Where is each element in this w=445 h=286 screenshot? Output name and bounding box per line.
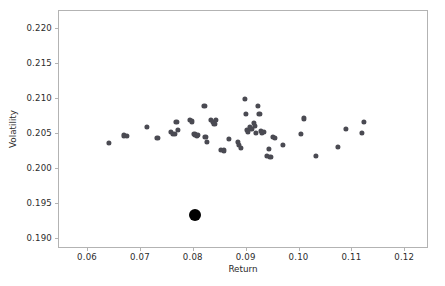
scatter-point <box>361 119 366 124</box>
scatter-point <box>190 119 195 124</box>
scatter-point <box>298 131 303 136</box>
scatter-point <box>243 112 248 117</box>
x-tick-label: 0.10 <box>289 252 309 262</box>
scatter-point <box>226 136 231 141</box>
y-tick-mark <box>55 168 58 169</box>
scatter-points-layer <box>59 11 427 247</box>
scatter-point <box>242 96 247 101</box>
x-tick-mark <box>140 248 141 251</box>
x-tick-mark <box>193 248 194 251</box>
y-tick-mark <box>55 98 58 99</box>
scatter-point <box>204 139 209 144</box>
scatter-point <box>301 116 306 121</box>
caption-strip <box>0 279 445 286</box>
scatter-point <box>257 111 262 116</box>
scatter-point <box>273 135 278 140</box>
scatter-point <box>266 146 271 151</box>
scatter-point <box>280 142 285 147</box>
scatter-point <box>238 145 243 150</box>
scatter-point <box>195 132 200 137</box>
x-tick-label: 0.06 <box>77 252 97 262</box>
scatter-point <box>268 155 273 160</box>
x-tick-mark <box>246 248 247 251</box>
x-axis-label: Return <box>228 264 257 274</box>
scatter-point <box>124 133 129 138</box>
y-tick-mark <box>55 63 58 64</box>
scatter-point <box>256 104 261 109</box>
y-tick-label: 0.220 <box>26 23 52 33</box>
scatter-point <box>343 126 348 131</box>
scatter-point <box>359 131 364 136</box>
scatter-point <box>172 132 177 137</box>
y-tick-mark <box>55 133 58 134</box>
scatter-point <box>335 145 340 150</box>
x-tick-label: 0.07 <box>130 252 150 262</box>
scatter-point <box>213 118 218 123</box>
scatter-point <box>313 153 318 158</box>
y-tick-label: 0.200 <box>26 163 52 173</box>
x-tick-label: 0.11 <box>341 252 361 262</box>
scatter-point <box>252 123 257 128</box>
x-tick-mark <box>87 248 88 251</box>
x-tick-mark <box>299 248 300 251</box>
scatter-plot-figure: 0.060.070.080.090.100.110.12 0.1900.1950… <box>0 0 445 286</box>
x-tick-label: 0.12 <box>394 252 414 262</box>
x-tick-mark <box>351 248 352 251</box>
scatter-point <box>144 124 149 129</box>
scatter-point <box>221 148 226 153</box>
y-axis-label: Volatility <box>8 110 18 148</box>
x-tick-label: 0.08 <box>183 252 203 262</box>
y-tick-label: 0.205 <box>26 128 52 138</box>
x-tick-label: 0.09 <box>236 252 256 262</box>
y-tick-label: 0.215 <box>26 58 52 68</box>
y-tick-mark <box>55 203 58 204</box>
y-tick-label: 0.210 <box>26 93 52 103</box>
scatter-point <box>202 104 207 109</box>
y-tick-mark <box>55 28 58 29</box>
scatter-point <box>155 135 160 140</box>
y-tick-mark <box>55 238 58 239</box>
y-tick-label: 0.195 <box>26 198 52 208</box>
x-tick-mark <box>404 248 405 251</box>
plot-area <box>58 10 428 248</box>
y-tick-label: 0.190 <box>26 233 52 243</box>
scatter-point <box>174 119 179 124</box>
scatter-point <box>261 129 266 134</box>
scatter-point <box>175 127 180 132</box>
scatter-point <box>107 140 112 145</box>
highlighted-point <box>189 209 201 221</box>
